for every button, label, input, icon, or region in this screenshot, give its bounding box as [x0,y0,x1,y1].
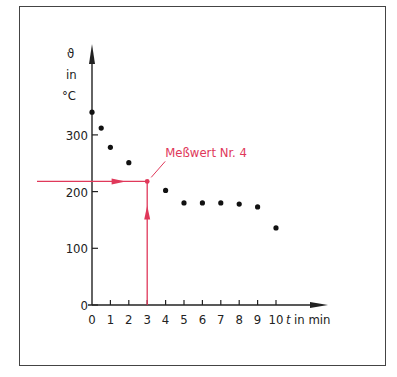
x-tick-label: 8 [235,312,242,327]
y-axis-in: in [66,67,77,82]
data-point [273,225,278,230]
data-point [99,125,104,130]
annotated-data-point [145,179,150,184]
x-axis-arrow-icon [310,302,328,308]
y-axis-unit: °C [62,88,76,103]
x-tick-label: 3 [143,312,150,327]
annotation-leader-line [151,161,165,177]
data-point [126,160,131,165]
data-point [89,110,94,115]
x-tick-label: 10 [269,312,284,327]
y-tick-label: 0 [81,298,88,313]
x-tick-label: 0 [88,312,95,327]
data-point [108,145,113,150]
annotation-right-arrow-icon [112,178,126,184]
y-axis-symbol: ϑ [67,46,74,61]
x-tick-label: 7 [217,312,224,327]
data-point [255,204,260,209]
data-point [163,188,168,193]
scatter-chart: 012345678910tin min0100200300ϑin°CMeßwer… [0,0,397,377]
data-point [218,200,223,205]
y-tick-label: 300 [66,128,88,143]
annotation-label: Meßwert Nr. 4 [165,145,247,160]
x-tick-label: 5 [180,312,187,327]
x-tick-label: 2 [125,312,132,327]
y-axis-arrow-icon [89,44,95,64]
x-axis-unit: in min [294,312,330,327]
annotation-up-arrow-icon [144,205,150,219]
data-point [237,201,242,206]
data-point [200,200,205,205]
y-tick-label: 200 [66,185,88,200]
data-point [181,200,186,205]
x-tick-label: 1 [107,312,114,327]
x-tick-label: 4 [162,312,169,327]
x-tick-label: 9 [254,312,261,327]
y-tick-label: 100 [66,241,88,256]
x-tick-label: 6 [199,312,206,327]
x-axis-symbol: t [286,312,291,327]
